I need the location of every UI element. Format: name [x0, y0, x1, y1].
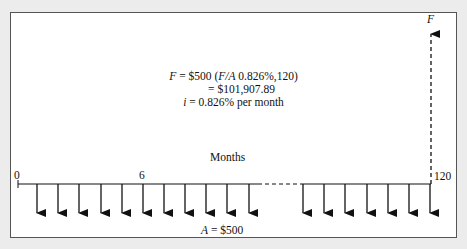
axis-end-label: 120 [434, 170, 451, 182]
payment-arrows [37, 184, 430, 213]
axis-label-months: Months [210, 151, 245, 163]
equation-line-2: = $101,907.89 [8, 83, 467, 96]
future-value-label: F [427, 13, 434, 25]
cash-flow-svg [0, 0, 467, 249]
equation-line-1: F = $500 (F/A 0.826%,120) [0, 70, 467, 83]
axis-mid-label: 6 [139, 169, 145, 181]
equation-line-3: i = 0.826% per month [0, 96, 467, 109]
axis-start-label: 0 [14, 169, 20, 181]
payment-label: A = $500 [201, 224, 243, 236]
